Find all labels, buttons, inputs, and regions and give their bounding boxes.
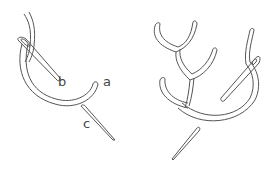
right-panel [154,21,260,160]
label-b: b [58,74,66,89]
thread-strand-left [24,12,35,62]
label-a: a [103,74,111,89]
stitch-y-2 [176,48,217,80]
thread-loop-right [178,29,259,121]
stitch-y-3 [160,78,194,108]
needle-lower [172,127,200,160]
stitch-diagram: b a c [0,0,274,173]
label-c: c [83,116,90,131]
stitch-y-1 [154,21,197,52]
left-panel: b a c [18,12,115,140]
thread-loop-end [93,82,98,84]
